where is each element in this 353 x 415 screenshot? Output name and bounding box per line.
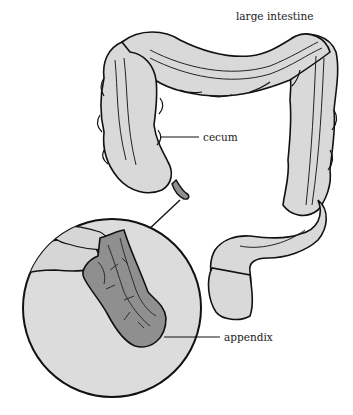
label-cecum: cecum	[203, 131, 238, 143]
magnified-appendix-view	[20, 219, 201, 397]
label-large-intestine: large intestine	[236, 10, 313, 22]
diagram-canvas: large intestine cecum appendix	[0, 0, 353, 415]
label-appendix: appendix	[224, 331, 273, 343]
appendix-small	[172, 180, 189, 199]
